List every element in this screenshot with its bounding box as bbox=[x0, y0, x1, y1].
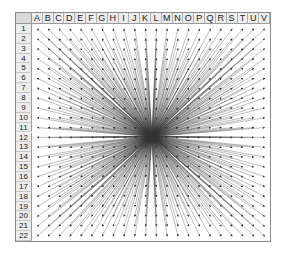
row-header-11[interactable]: 11 bbox=[16, 123, 32, 133]
row-header-3[interactable]: 3 bbox=[16, 44, 32, 54]
row-header-22[interactable]: 22 bbox=[16, 231, 32, 241]
column-header-r[interactable]: R bbox=[216, 13, 227, 24]
column-header-f[interactable]: F bbox=[86, 13, 97, 24]
column-header-j[interactable]: J bbox=[129, 13, 140, 24]
column-header-e[interactable]: E bbox=[75, 13, 86, 24]
column-header-n[interactable]: N bbox=[173, 13, 184, 24]
row-header-6[interactable]: 6 bbox=[16, 73, 32, 83]
row-header-2[interactable]: 2 bbox=[16, 34, 32, 44]
column-header-k[interactable]: K bbox=[140, 13, 151, 24]
column-header-q[interactable]: Q bbox=[205, 13, 216, 24]
column-header-t[interactable]: T bbox=[238, 13, 249, 24]
row-header-12[interactable]: 12 bbox=[16, 133, 32, 143]
column-header-i[interactable]: I bbox=[119, 13, 130, 24]
select-all-corner[interactable] bbox=[16, 13, 32, 24]
column-header-b[interactable]: B bbox=[43, 13, 54, 24]
spreadsheet-grid[interactable]: ABCDEFGHIJKLMNOPQRSTUV 12345678910111213… bbox=[15, 12, 271, 242]
column-header-o[interactable]: O bbox=[183, 13, 194, 24]
column-header-h[interactable]: H bbox=[108, 13, 119, 24]
row-header-1[interactable]: 1 bbox=[16, 24, 32, 34]
row-header-14[interactable]: 14 bbox=[16, 152, 32, 162]
row-header-20[interactable]: 20 bbox=[16, 211, 32, 221]
row-header-10[interactable]: 10 bbox=[16, 113, 32, 123]
row-header-9[interactable]: 9 bbox=[16, 103, 32, 113]
column-header-p[interactable]: P bbox=[194, 13, 205, 24]
row-header-17[interactable]: 17 bbox=[16, 182, 32, 192]
column-header-m[interactable]: M bbox=[162, 13, 173, 24]
column-header-c[interactable]: C bbox=[54, 13, 65, 24]
row-header-7[interactable]: 7 bbox=[16, 83, 32, 93]
row-header-19[interactable]: 19 bbox=[16, 202, 32, 212]
column-header-s[interactable]: S bbox=[227, 13, 238, 24]
row-header-18[interactable]: 18 bbox=[16, 192, 32, 202]
column-header-v[interactable]: V bbox=[259, 13, 270, 24]
column-header-g[interactable]: G bbox=[97, 13, 108, 24]
column-header-a[interactable]: A bbox=[32, 13, 43, 24]
column-header-u[interactable]: U bbox=[248, 13, 259, 24]
row-header-8[interactable]: 8 bbox=[16, 93, 32, 103]
row-header-13[interactable]: 13 bbox=[16, 142, 32, 152]
row-header-15[interactable]: 15 bbox=[16, 162, 32, 172]
vector-arrows-plot bbox=[32, 24, 270, 241]
column-header-d[interactable]: D bbox=[64, 13, 75, 24]
row-header-21[interactable]: 21 bbox=[16, 221, 32, 231]
row-header-4[interactable]: 4 bbox=[16, 54, 32, 64]
row-header-5[interactable]: 5 bbox=[16, 63, 32, 73]
row-header-16[interactable]: 16 bbox=[16, 172, 32, 182]
column-header-l[interactable]: L bbox=[151, 13, 162, 24]
